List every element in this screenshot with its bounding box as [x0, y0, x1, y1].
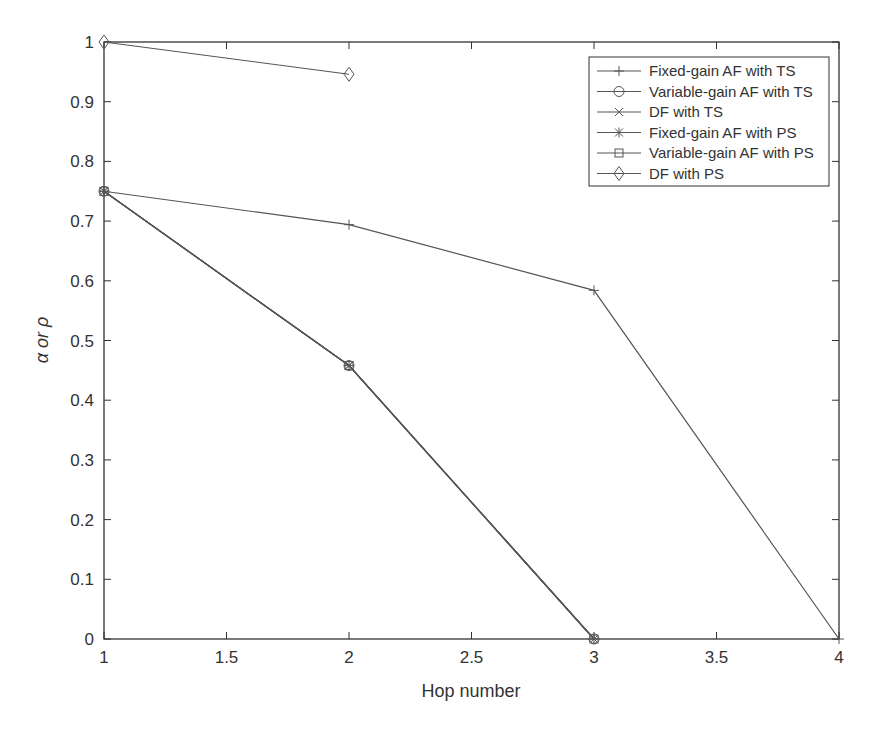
y-tick-label: 0.4 — [70, 391, 94, 410]
star-marker-icon — [614, 128, 624, 138]
series-line — [104, 191, 594, 639]
y-tick-label: 0 — [85, 630, 94, 649]
legend-label: Fixed-gain AF with PS — [649, 124, 797, 141]
legend-label: Fixed-gain AF with TS — [649, 62, 795, 79]
y-tick-label: 0.3 — [70, 451, 94, 470]
series-line — [104, 191, 839, 639]
x-tick-label: 3.5 — [705, 648, 729, 667]
series-variable-gain-af-with-ps — [100, 187, 598, 643]
plus-marker-icon — [589, 285, 599, 295]
y-tick-label: 0.1 — [70, 570, 94, 589]
x-tick-label: 2.5 — [460, 648, 484, 667]
series-line — [104, 191, 594, 639]
legend: Fixed-gain AF with TSVariable-gain AF wi… — [589, 57, 829, 186]
legend-label: Variable-gain AF with PS — [649, 144, 814, 161]
x-axis-label: Hop number — [421, 681, 520, 701]
y-tick-label: 1 — [85, 33, 94, 52]
y-tick-label: 0.5 — [70, 332, 94, 351]
series-line — [104, 191, 594, 639]
x-tick-label: 1 — [99, 648, 108, 667]
line-chart: 11.522.533.5400.10.20.30.40.50.60.70.80.… — [0, 0, 874, 732]
plus-marker-icon — [344, 220, 354, 230]
x-tick-label: 2 — [344, 648, 353, 667]
y-tick-label: 0.8 — [70, 152, 94, 171]
legend-label: DF with PS — [649, 165, 724, 182]
y-tick-label: 0.7 — [70, 212, 94, 231]
legend-label: DF with TS — [649, 103, 723, 120]
x-tick-label: 1.5 — [215, 648, 239, 667]
y-tick-label: 0.2 — [70, 511, 94, 530]
y-tick-label: 0.9 — [70, 93, 94, 112]
x-tick-label: 3 — [589, 648, 598, 667]
series-line — [104, 191, 594, 639]
series-fixed-gain-af-with-ts — [99, 186, 844, 644]
y-axis-label: α or ρ — [32, 317, 52, 364]
plus-marker-icon — [834, 634, 844, 644]
y-tick-label: 0.6 — [70, 272, 94, 291]
series-fixed-gain-af-with-ps — [99, 186, 599, 644]
series-variable-gain-af-with-ts — [99, 186, 599, 644]
legend-label: Variable-gain AF with TS — [649, 83, 813, 100]
x-tick-label: 4 — [834, 648, 843, 667]
series-df-with-ts — [100, 187, 598, 643]
